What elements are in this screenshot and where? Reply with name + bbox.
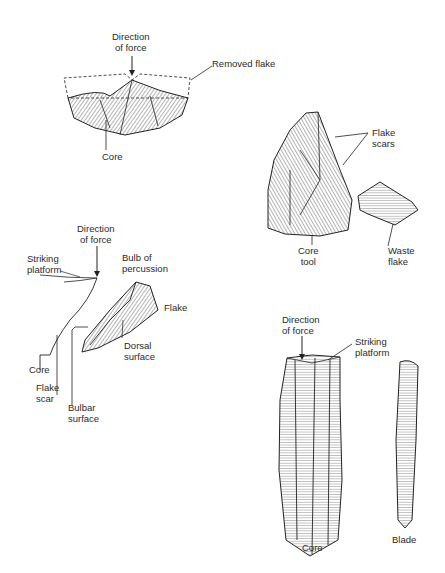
- label-line-2: scars: [372, 138, 395, 149]
- label-line-1: Striking: [27, 253, 61, 264]
- label-line-1: Dorsal: [124, 340, 155, 351]
- label-core-3: Core: [302, 542, 323, 553]
- label-line-2: platform: [27, 264, 61, 275]
- label-line-2: of force: [282, 325, 320, 336]
- label-line-1: Bulbar: [68, 402, 99, 413]
- label-line-2: of force: [112, 42, 150, 53]
- label-direction-of-force-2: Direction of force: [77, 223, 115, 245]
- label-flake-scars: Flake scars: [372, 127, 395, 149]
- stone-tool-illustrations: [0, 0, 445, 573]
- label-line-2: flake: [388, 256, 415, 267]
- label-line-2: surface: [124, 351, 155, 362]
- label-line-1: Core: [298, 245, 319, 256]
- blade-core-and-blade: [279, 336, 418, 556]
- label-bulb-of-percussion: Bulb of percussion: [122, 252, 168, 274]
- label-waste-flake: Waste flake: [388, 245, 415, 267]
- label-line-1: Waste: [388, 245, 415, 256]
- label-flake: Flake: [164, 302, 187, 313]
- label-dorsal-surface: Dorsal surface: [124, 340, 155, 362]
- label-striking-platform-1: Striking platform: [27, 253, 61, 275]
- label-direction-of-force-3: Direction of force: [282, 314, 320, 336]
- label-core-tool: Core tool: [298, 245, 319, 267]
- label-line-2: platform: [355, 347, 389, 358]
- label-line-1: Striking: [355, 336, 389, 347]
- label-blade: Blade: [392, 534, 416, 545]
- label-line-1: Direction: [112, 31, 150, 42]
- label-line-1: Flake: [372, 127, 395, 138]
- core-with-removed-flake: [64, 56, 212, 150]
- label-line-2: percussion: [122, 263, 168, 274]
- core-tool-and-waste-flake: [268, 112, 418, 246]
- label-line-2: surface: [68, 413, 99, 424]
- label-direction-of-force-1: Direction of force: [112, 31, 150, 53]
- label-removed-flake: Removed flake: [212, 58, 275, 69]
- label-striking-platform-2: Striking platform: [355, 336, 389, 358]
- label-core-2: Core: [29, 364, 50, 375]
- label-line-1: Flake: [36, 382, 59, 393]
- label-line-1: Bulb of: [122, 252, 168, 263]
- label-line-1: Direction: [77, 223, 115, 234]
- label-line-2: scar: [36, 393, 59, 404]
- label-line-2: of force: [77, 234, 115, 245]
- label-flake-scar: Flake scar: [36, 382, 59, 404]
- label-bulbar-surface: Bulbar surface: [68, 402, 99, 424]
- label-line-1: Direction: [282, 314, 320, 325]
- label-core-1: Core: [102, 151, 123, 162]
- label-line-2: tool: [298, 256, 319, 267]
